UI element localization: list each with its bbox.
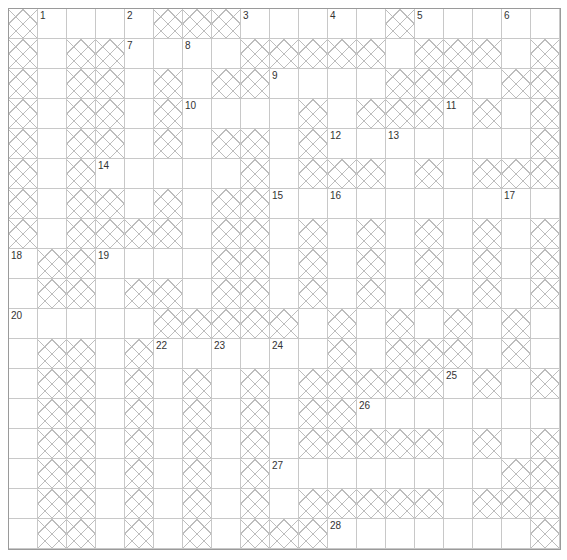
answer-cell[interactable]: [444, 189, 473, 219]
answer-cell[interactable]: [270, 129, 299, 159]
answer-cell[interactable]: [212, 399, 241, 429]
answer-cell[interactable]: [473, 399, 502, 429]
answer-cell[interactable]: [38, 309, 67, 339]
answer-cell[interactable]: [96, 369, 125, 399]
answer-cell[interactable]: [212, 459, 241, 489]
answer-cell[interactable]: [270, 219, 299, 249]
answer-cell[interactable]: [502, 369, 531, 399]
answer-cell[interactable]: [183, 339, 212, 369]
answer-cell[interactable]: [183, 159, 212, 189]
answer-cell[interactable]: [357, 339, 386, 369]
answer-cell[interactable]: [415, 459, 444, 489]
answer-cell[interactable]: 9: [270, 69, 299, 99]
answer-cell[interactable]: [299, 459, 328, 489]
answer-cell[interactable]: 26: [357, 399, 386, 429]
answer-cell[interactable]: [67, 309, 96, 339]
answer-cell[interactable]: [38, 99, 67, 129]
answer-cell[interactable]: [154, 459, 183, 489]
answer-cell[interactable]: [357, 519, 386, 549]
answer-cell[interactable]: [9, 519, 38, 549]
answer-cell[interactable]: [415, 399, 444, 429]
answer-cell[interactable]: 25: [444, 369, 473, 399]
answer-cell[interactable]: [531, 9, 560, 39]
answer-cell[interactable]: 13: [386, 129, 415, 159]
answer-cell[interactable]: [241, 99, 270, 129]
answer-cell[interactable]: 10: [183, 99, 212, 129]
answer-cell[interactable]: [270, 99, 299, 129]
answer-cell[interactable]: [38, 219, 67, 249]
answer-cell[interactable]: [444, 429, 473, 459]
answer-cell[interactable]: [96, 519, 125, 549]
answer-cell[interactable]: 22: [154, 339, 183, 369]
answer-cell[interactable]: [357, 9, 386, 39]
answer-cell[interactable]: [96, 9, 125, 39]
answer-cell[interactable]: 19: [96, 249, 125, 279]
answer-cell[interactable]: [125, 99, 154, 129]
answer-cell[interactable]: [502, 399, 531, 429]
answer-cell[interactable]: [502, 99, 531, 129]
answer-cell[interactable]: [212, 39, 241, 69]
answer-cell[interactable]: [473, 189, 502, 219]
answer-cell[interactable]: [212, 519, 241, 549]
answer-cell[interactable]: 18: [9, 249, 38, 279]
answer-cell[interactable]: [270, 399, 299, 429]
answer-cell[interactable]: [299, 9, 328, 39]
answer-cell[interactable]: 4: [328, 9, 357, 39]
answer-cell[interactable]: [38, 129, 67, 159]
answer-cell[interactable]: 2: [125, 9, 154, 39]
answer-cell[interactable]: [415, 189, 444, 219]
answer-cell[interactable]: [96, 279, 125, 309]
answer-cell[interactable]: [154, 249, 183, 279]
answer-cell[interactable]: [9, 279, 38, 309]
answer-cell[interactable]: [444, 249, 473, 279]
answer-cell[interactable]: [502, 249, 531, 279]
answer-cell[interactable]: [299, 189, 328, 219]
answer-cell[interactable]: [444, 519, 473, 549]
answer-cell[interactable]: [502, 279, 531, 309]
answer-cell[interactable]: [531, 309, 560, 339]
answer-cell[interactable]: [473, 9, 502, 39]
answer-cell[interactable]: [386, 219, 415, 249]
answer-cell[interactable]: [299, 309, 328, 339]
answer-cell[interactable]: 20: [9, 309, 38, 339]
answer-cell[interactable]: [386, 159, 415, 189]
answer-cell[interactable]: [415, 519, 444, 549]
answer-cell[interactable]: [357, 459, 386, 489]
answer-cell[interactable]: [9, 339, 38, 369]
answer-cell[interactable]: [125, 249, 154, 279]
answer-cell[interactable]: [125, 309, 154, 339]
answer-cell[interactable]: [96, 489, 125, 519]
answer-cell[interactable]: [386, 189, 415, 219]
answer-cell[interactable]: [328, 69, 357, 99]
answer-cell[interactable]: [502, 519, 531, 549]
answer-cell[interactable]: [473, 69, 502, 99]
answer-cell[interactable]: [183, 219, 212, 249]
answer-cell[interactable]: [96, 339, 125, 369]
answer-cell[interactable]: [531, 339, 560, 369]
answer-cell[interactable]: [386, 459, 415, 489]
answer-cell[interactable]: [96, 459, 125, 489]
answer-cell[interactable]: [154, 39, 183, 69]
answer-cell[interactable]: [386, 39, 415, 69]
answer-cell[interactable]: 8: [183, 39, 212, 69]
answer-cell[interactable]: [444, 399, 473, 429]
answer-cell[interactable]: 6: [502, 9, 531, 39]
answer-cell[interactable]: [415, 129, 444, 159]
answer-cell[interactable]: [9, 489, 38, 519]
answer-cell[interactable]: 16: [328, 189, 357, 219]
answer-cell[interactable]: [212, 429, 241, 459]
answer-cell[interactable]: [38, 189, 67, 219]
answer-cell[interactable]: [38, 69, 67, 99]
answer-cell[interactable]: [357, 129, 386, 159]
answer-cell[interactable]: [270, 159, 299, 189]
answer-cell[interactable]: [444, 159, 473, 189]
answer-cell[interactable]: [328, 459, 357, 489]
answer-cell[interactable]: [125, 159, 154, 189]
answer-cell[interactable]: [415, 309, 444, 339]
answer-cell[interactable]: [386, 399, 415, 429]
answer-cell[interactable]: [154, 429, 183, 459]
answer-cell[interactable]: 11: [444, 99, 473, 129]
answer-cell[interactable]: [357, 189, 386, 219]
answer-cell[interactable]: [125, 129, 154, 159]
answer-cell[interactable]: 1: [38, 9, 67, 39]
